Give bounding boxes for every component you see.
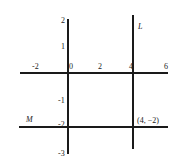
y-axis — [67, 19, 69, 154]
line-l-label: L — [138, 23, 142, 31]
line-m-label: M — [26, 116, 33, 124]
line-m — [19, 126, 168, 128]
intersection-label: (4, −2) — [137, 117, 159, 125]
y-tick-label: 1 — [61, 43, 65, 51]
y-tick-label: 2 — [61, 17, 65, 25]
y-tick-label: -1 — [58, 97, 65, 105]
x-tick-label: -2 — [32, 63, 39, 71]
line-l — [132, 15, 134, 149]
x-tick-label: 0 — [69, 63, 73, 71]
x-tick-label: 2 — [98, 63, 102, 71]
x-axis — [20, 72, 168, 74]
y-tick-label: -2 — [58, 121, 65, 129]
y-tick-label: -3 — [58, 150, 65, 158]
x-tick-label: 6 — [164, 63, 168, 71]
x-tick-label: 4 — [129, 63, 133, 71]
